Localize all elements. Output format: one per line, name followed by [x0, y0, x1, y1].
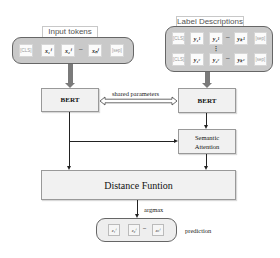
bert-right-box: BERT: [178, 88, 236, 113]
token-ellipsis: –: [79, 45, 83, 53]
prediction-ellipsis: –: [143, 225, 146, 231]
distance-function-box: Distance Funtion: [41, 170, 236, 200]
prediction-label: prediction: [185, 227, 211, 234]
prediction-container: z₁ⁱ z₂ⁱ – zₙⁱ: [96, 218, 177, 242]
bert-right-label: BERT: [198, 97, 217, 105]
shared-parameters-double-arrow-icon: [99, 96, 178, 106]
prediction-token-zn: zₙⁱ: [152, 224, 164, 236]
semantic-attention-line2: Attention: [195, 142, 220, 151]
prediction-token-z1: z₁ⁱ: [108, 224, 120, 236]
label-row1-yk: yₖ¹: [234, 32, 248, 45]
input-to-bert-arrow: [68, 64, 73, 84]
label-row2-ellipsis: –: [226, 54, 230, 62]
semantic-attention-line1: Semantic: [195, 133, 219, 142]
bert-left-to-distance-line: [69, 112, 70, 166]
label-row2-y1: y₁ᶜ: [190, 53, 204, 66]
bert-left-box: BERT: [41, 88, 99, 112]
label-descriptions-container: [CLS] y₁¹ y₂¹ – yₖ¹ [sep] ⋮ [CLS] y₁ᶜ y₂…: [165, 26, 273, 72]
bert-left-to-attention-line: [69, 141, 174, 142]
token-sep: [sep]: [110, 44, 124, 57]
distance-function-label: Distance Funtion: [104, 180, 173, 191]
label-row2-sep: [sep]: [254, 53, 267, 66]
token-x1: x₁ⁱ: [41, 44, 55, 57]
token-xn: xₙⁱ: [88, 44, 102, 57]
label-row1-cls: [CLS]: [172, 32, 185, 45]
label-row2-y2: y₂ᶜ: [209, 53, 223, 66]
label-row2-cls: [CLS]: [172, 53, 185, 66]
label-vertical-ellipsis: ⋮: [213, 44, 219, 51]
label-row1-sep: [sep]: [254, 32, 267, 45]
argmax-label: argmax: [144, 206, 163, 213]
bert-right-to-attention-line: [206, 113, 207, 125]
token-cls: [CLS]: [19, 44, 33, 57]
input-tokens-container: [CLS] x₁ⁱ x₂ⁱ – xₙⁱ [sep]: [12, 37, 134, 64]
label-row1-y1: y₁¹: [190, 32, 204, 45]
label-row1-ellipsis: –: [226, 33, 230, 41]
bert-left-label: BERT: [61, 96, 80, 104]
attention-to-distance-line: [206, 154, 207, 166]
argmax-line: [137, 200, 138, 214]
semantic-attention-box: Semantic Attention: [178, 129, 236, 154]
token-x2: x₂ⁱ: [61, 44, 75, 57]
prediction-token-z2: z₂ⁱ: [128, 224, 140, 236]
label-row2-yk: yₖᶜ: [234, 53, 248, 66]
input-tokens-title: Input tokens: [42, 26, 98, 37]
